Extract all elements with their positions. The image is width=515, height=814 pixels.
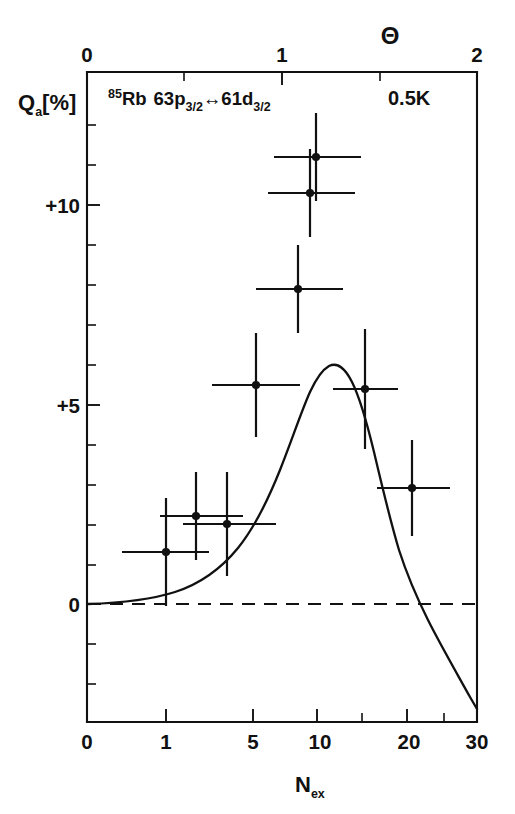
state-a: 63p: [154, 88, 186, 109]
y-tick-labels: +10 +5 0: [45, 194, 80, 616]
x-axis-title: Nex: [295, 772, 325, 801]
data-point-4: [212, 333, 300, 437]
y-axis-ticks: [87, 125, 100, 684]
marker-dot: [223, 520, 231, 528]
top-tick-label-2: 2: [471, 43, 482, 66]
top-axis-ticks: [184, 72, 380, 85]
data-point-7: [274, 113, 361, 201]
data-point-6: [268, 149, 355, 237]
y-axis-title: Qa[%]: [18, 90, 76, 119]
fit-curve: [88, 365, 477, 709]
marker-dot: [312, 153, 320, 161]
temperature-annotation: 0.5K: [388, 87, 431, 109]
x-tick-label-20: 20: [398, 730, 421, 753]
y-axis-title-unit: [%]: [42, 90, 76, 115]
data-point-8: [333, 329, 398, 449]
marker-dot: [294, 285, 302, 293]
state-b: 61d: [221, 88, 253, 109]
transition-annotation: 85Rb63p3/2↔61d3/2: [108, 87, 271, 114]
x-tick-labels: 0 1 5 10 20 30: [81, 730, 488, 753]
isotope-superscript: 85: [108, 87, 122, 101]
state-a-subscript: 3/2: [185, 100, 202, 114]
y-tick-label-5: +5: [57, 394, 80, 417]
x-tick-label-10: 10: [309, 730, 332, 753]
y-tick-label-0: 0: [69, 593, 80, 616]
top-tick-label-0: 0: [81, 43, 92, 66]
marker-dot: [162, 548, 170, 556]
marker-dot: [252, 381, 260, 389]
data-point-2: [160, 472, 243, 560]
x-tick-label-0: 0: [81, 730, 92, 753]
marker-dot: [408, 484, 416, 492]
marker-dot: [361, 385, 369, 393]
marker-dot: [306, 189, 314, 197]
data-point-5: [256, 245, 343, 333]
top-axis-title-theta: Θ: [381, 22, 400, 49]
plot-annotations: 85Rb63p3/2↔61d3/2 0.5K: [108, 87, 431, 114]
x-tick-label-1: 1: [160, 730, 171, 753]
x-axis-ticks: [166, 709, 477, 722]
x-tick-label-5: 5: [247, 730, 258, 753]
plot-frame: [87, 72, 477, 722]
transition-arrow-icon: ↔: [203, 88, 222, 109]
data-point-9: [377, 440, 450, 536]
x-axis-title-main: N: [295, 772, 311, 797]
state-b-subscript: 3/2: [253, 100, 270, 114]
top-tick-labels: 0 1 2: [81, 43, 482, 66]
scatter-plot-svg: +10 +5 0 0 1 5 10 20 30 0 1 2 Θ Qa[%]: [0, 0, 515, 814]
top-tick-label-1: 1: [276, 43, 287, 66]
isotope-symbol: Rb: [122, 88, 147, 109]
y-axis-title-main: Q: [18, 90, 35, 115]
y-tick-label-10: +10: [45, 194, 80, 217]
marker-dot: [192, 512, 200, 520]
x-tick-label-30: 30: [466, 730, 489, 753]
figure-container: +10 +5 0 0 1 5 10 20 30 0 1 2 Θ Qa[%]: [0, 0, 515, 814]
x-axis-title-sub: ex: [311, 787, 325, 801]
